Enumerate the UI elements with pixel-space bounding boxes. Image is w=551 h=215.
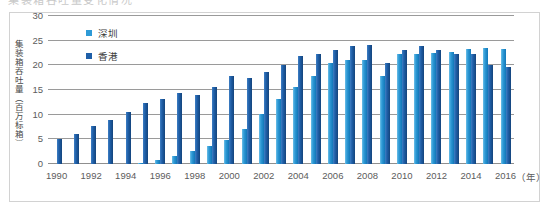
bar-2011-hongkong[interactable] bbox=[419, 46, 424, 164]
bar-1992-hongkong[interactable] bbox=[91, 126, 96, 164]
bar-2007-hongkong[interactable] bbox=[350, 46, 355, 164]
bar-group-2005 bbox=[307, 16, 324, 164]
x-axis-labels: 1990199219941996199820002002200420062008… bbox=[48, 170, 514, 186]
x-slot-1992: 1992 bbox=[83, 170, 100, 186]
bar-2004-hongkong[interactable] bbox=[298, 56, 303, 164]
y-axis-title: 集装箱吞吐量（百万标箱） bbox=[10, 16, 26, 172]
x-tick-label-2012: 2012 bbox=[426, 170, 447, 181]
legend-label-shenzhen: 深圳 bbox=[98, 26, 118, 40]
bar-2003-hongkong[interactable] bbox=[281, 65, 286, 164]
bar-1991-hongkong[interactable] bbox=[74, 134, 79, 164]
bar-group-1999 bbox=[203, 16, 220, 164]
top-caption-text: 集装箱吞吐量变化情况 bbox=[8, 0, 133, 7]
y-axis-title-text: 集装箱吞吐量（百万标箱） bbox=[14, 40, 23, 148]
y-tick-label-10: 10 bbox=[32, 108, 43, 119]
bar-group-2016 bbox=[497, 16, 514, 164]
bar-group-2008 bbox=[359, 16, 376, 164]
bar-2013-hongkong[interactable] bbox=[454, 54, 459, 164]
chart-page: 集装箱吞吐量变化情况 集装箱吞吐量（百万标箱） 051015202530 199… bbox=[0, 0, 551, 215]
x-slot-1994: 1994 bbox=[117, 170, 134, 186]
x-tick-label-2000: 2000 bbox=[219, 170, 240, 181]
bar-1994-hongkong[interactable] bbox=[126, 112, 131, 164]
bar-2000-hongkong[interactable] bbox=[229, 76, 234, 164]
y-tick-label-15: 15 bbox=[32, 84, 43, 95]
bar-1997-hongkong[interactable] bbox=[177, 93, 182, 164]
x-slot-1996: 1996 bbox=[152, 170, 169, 186]
bar-group-2014 bbox=[462, 16, 479, 164]
x-tick-label-2004: 2004 bbox=[288, 170, 309, 181]
x-slot-2004: 2004 bbox=[290, 170, 307, 186]
bar-2015-hongkong[interactable] bbox=[488, 65, 493, 164]
x-tick-label-2016: 2016 bbox=[495, 170, 516, 181]
x-slot-2000: 2000 bbox=[221, 170, 238, 186]
bar-2006-hongkong[interactable] bbox=[333, 50, 338, 164]
bar-2008-hongkong[interactable] bbox=[367, 45, 372, 164]
x-slot-2016: 2016 bbox=[497, 170, 514, 186]
x-slot-1990: 1990 bbox=[48, 170, 65, 186]
y-tick-label-30: 30 bbox=[32, 10, 43, 21]
bar-2009-hongkong[interactable] bbox=[385, 63, 390, 164]
x-tick-label-1990: 1990 bbox=[46, 170, 67, 181]
legend-label-hongkong: 香港 bbox=[98, 49, 118, 63]
y-tick-label-20: 20 bbox=[32, 59, 43, 70]
x-tick-label-2006: 2006 bbox=[322, 170, 343, 181]
x-slot-2012: 2012 bbox=[428, 170, 445, 186]
bar-group-1997 bbox=[169, 16, 186, 164]
bar-group-2012 bbox=[428, 16, 445, 164]
bar-1990-hongkong[interactable] bbox=[57, 139, 62, 164]
bar-2012-hongkong[interactable] bbox=[436, 50, 441, 164]
x-tick-label-2014: 2014 bbox=[460, 170, 481, 181]
bar-2010-hongkong[interactable] bbox=[402, 50, 407, 164]
x-slot-2002: 2002 bbox=[255, 170, 272, 186]
x-slot-2006: 2006 bbox=[324, 170, 341, 186]
bar-group-2007 bbox=[342, 16, 359, 164]
x-slot-2014: 2014 bbox=[462, 170, 479, 186]
legend-swatch-icon-shenzhen bbox=[86, 30, 92, 36]
bar-group-1990 bbox=[48, 16, 65, 164]
bar-1995-hongkong[interactable] bbox=[143, 103, 148, 164]
bar-group-1995 bbox=[134, 16, 151, 164]
x-axis-unit: （年） bbox=[516, 170, 546, 184]
x-slot-2010: 2010 bbox=[393, 170, 410, 186]
bar-group-2006 bbox=[324, 16, 341, 164]
y-tick-label-5: 5 bbox=[38, 133, 43, 144]
y-tick-label-0: 0 bbox=[38, 158, 43, 169]
legend-item-hongkong[interactable]: 香港 bbox=[86, 49, 118, 63]
legend-item-shenzhen[interactable]: 深圳 bbox=[86, 26, 118, 40]
bar-group-2004 bbox=[290, 16, 307, 164]
bar-group-2015 bbox=[480, 16, 497, 164]
bar-2005-hongkong[interactable] bbox=[316, 54, 321, 165]
legend: 深圳 香港 bbox=[86, 26, 118, 63]
bar-group-2002 bbox=[255, 16, 272, 164]
bar-1993-hongkong[interactable] bbox=[108, 120, 113, 164]
y-tick-label-25: 25 bbox=[32, 34, 43, 45]
x-tick-label-2008: 2008 bbox=[357, 170, 378, 181]
x-slot-2008: 2008 bbox=[359, 170, 376, 186]
bar-2002-hongkong[interactable] bbox=[264, 72, 269, 164]
bar-2001-hongkong[interactable] bbox=[247, 78, 252, 164]
bar-2016-hongkong[interactable] bbox=[506, 67, 511, 164]
bar-group-2003 bbox=[272, 16, 289, 164]
x-tick-label-1994: 1994 bbox=[115, 170, 136, 181]
bar-group-1994 bbox=[117, 16, 134, 164]
x-tick-label-1998: 1998 bbox=[184, 170, 205, 181]
bar-group-2009 bbox=[376, 16, 393, 164]
x-slot-1998: 1998 bbox=[186, 170, 203, 186]
bar-1996-hongkong[interactable] bbox=[160, 99, 165, 164]
bar-group-2011 bbox=[411, 16, 428, 164]
legend-swatch-icon-hongkong bbox=[86, 53, 92, 59]
bar-1998-hongkong[interactable] bbox=[195, 95, 200, 164]
x-tick-label-2002: 2002 bbox=[253, 170, 274, 181]
bar-2014-hongkong[interactable] bbox=[471, 54, 476, 164]
x-tick-label-2010: 2010 bbox=[391, 170, 412, 181]
bar-group-2001 bbox=[238, 16, 255, 164]
bar-group-2013 bbox=[445, 16, 462, 164]
bar-group-2010 bbox=[393, 16, 410, 164]
x-tick-label-1996: 1996 bbox=[150, 170, 171, 181]
bar-group-2000 bbox=[221, 16, 238, 164]
x-tick-label-1992: 1992 bbox=[81, 170, 102, 181]
bar-group-1998 bbox=[186, 16, 203, 164]
bar-group-1996 bbox=[152, 16, 169, 164]
bar-1999-hongkong[interactable] bbox=[212, 87, 217, 164]
top-caption-sliver: 集装箱吞吐量变化情况 bbox=[0, 0, 551, 11]
